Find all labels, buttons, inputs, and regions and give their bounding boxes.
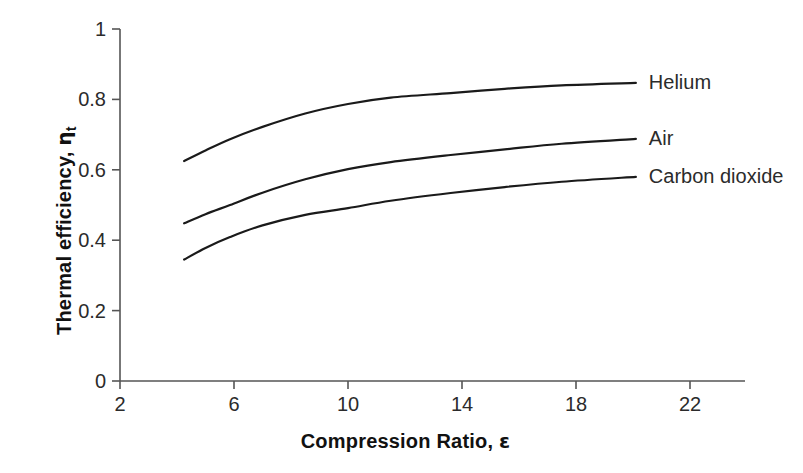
y-tick-label: 0.4 <box>78 230 106 250</box>
x-tick-marks <box>120 381 690 389</box>
series-line-carbon-dioxide <box>184 177 636 260</box>
x-tick-label: 2 <box>80 394 160 414</box>
eta-subscript: t <box>63 126 79 131</box>
series-line-helium <box>184 83 636 161</box>
x-tick-label: 18 <box>536 394 616 414</box>
x-axis-title: Compression Ratio, ε <box>93 429 718 453</box>
x-tick-label: 14 <box>422 394 502 414</box>
eta-symbol: η <box>52 131 76 145</box>
y-tick-label: 0.8 <box>78 89 106 109</box>
x-tick-label: 22 <box>650 394 730 414</box>
y-axis-title: Thermal efficiency, ηt <box>52 126 79 335</box>
y-axis-title-text: Thermal efficiency, <box>53 146 75 335</box>
epsilon-symbol: ε <box>499 429 510 453</box>
chart-figure: 00.20.40.60.81 2610141822 HeliumAirCarbo… <box>0 0 803 473</box>
series-label-air: Air <box>649 128 673 148</box>
series-lines <box>184 83 636 260</box>
y-tick-marks <box>112 29 120 381</box>
y-tick-label: 0.6 <box>78 160 106 180</box>
series-label-carbon-dioxide: Carbon dioxide <box>649 166 784 186</box>
y-tick-label: 0 <box>95 371 106 391</box>
x-tick-label: 6 <box>194 394 274 414</box>
y-tick-label: 0.2 <box>78 301 106 321</box>
x-axis-title-text: Compression Ratio, <box>301 430 499 452</box>
series-label-helium: Helium <box>649 72 711 92</box>
x-tick-label: 10 <box>308 394 388 414</box>
y-tick-label: 1 <box>95 19 106 39</box>
